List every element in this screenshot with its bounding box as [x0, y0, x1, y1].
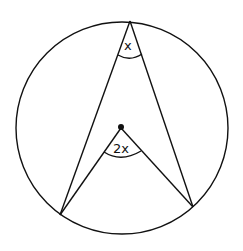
angle-label-x: x — [124, 38, 132, 53]
chord-top-right — [130, 21, 193, 207]
circle-theorem-diagram: x 2x — [0, 0, 243, 251]
center-point — [118, 124, 124, 130]
angle-label-2x: 2x — [113, 141, 129, 156]
radius-right — [121, 128, 193, 207]
angle-arc-top — [118, 54, 142, 58]
radius-left — [60, 128, 121, 215]
chord-top-left — [60, 21, 130, 215]
